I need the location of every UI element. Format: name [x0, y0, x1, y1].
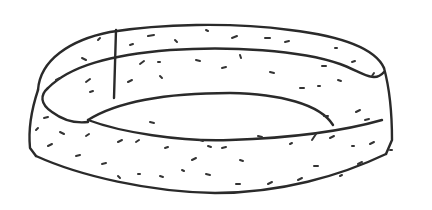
speck-mark [330, 136, 334, 138]
speck-mark [182, 170, 184, 171]
speck-mark [258, 136, 262, 137]
speck-mark [200, 140, 203, 141]
speck-mark [222, 147, 226, 148]
inner-top-rim-line [48, 49, 384, 88]
outer-left-side-line [29, 90, 38, 156]
speck-mark [48, 144, 52, 146]
speck-mark [372, 73, 374, 76]
speck-mark [44, 117, 48, 118]
speck-mark [222, 67, 226, 68]
speck-mark [148, 35, 154, 36]
speck-mark [90, 91, 93, 92]
speck-mark [298, 178, 302, 180]
speck-mark [352, 61, 355, 62]
speck-mark [76, 155, 80, 156]
speck-mark [340, 175, 342, 176]
speck-mark [240, 55, 241, 58]
hole-far-edge-line [88, 93, 333, 125]
speck-mark [240, 160, 243, 161]
inner-left-curve-line [42, 88, 88, 122]
speck-mark [206, 174, 210, 175]
bottom-rim-line [36, 154, 386, 193]
speck-mark [268, 182, 272, 184]
speck-mark [136, 140, 139, 142]
speck-mark [192, 158, 196, 160]
speck-mark [232, 36, 237, 38]
seam-line-line [114, 30, 116, 98]
speck-mark [290, 143, 292, 144]
speck-mark [312, 134, 316, 140]
speck-mark [160, 176, 163, 177]
speck-mark [82, 58, 86, 60]
speck-mark [165, 147, 168, 148]
speck-mark [102, 163, 106, 164]
speck-mark [60, 132, 64, 134]
speck-mark [356, 110, 360, 112]
ring-outlines [29, 25, 392, 193]
speck-mark [365, 119, 369, 120]
speck-mark [86, 134, 89, 136]
ring-sketch-drawing [0, 0, 432, 210]
outer-right-side-line [384, 68, 392, 154]
speck-mark [118, 140, 122, 142]
speck-mark [208, 146, 211, 147]
speck-mark [86, 79, 90, 82]
speck-mark [160, 76, 162, 78]
speck-mark [196, 60, 200, 61]
speck-mark [270, 72, 274, 73]
hole-near-edge-line [88, 120, 382, 140]
speck-mark [206, 30, 208, 31]
speck-mark [285, 41, 289, 42]
speck-mark [36, 128, 38, 130]
speck-mark [130, 44, 133, 45]
speck-mark [128, 80, 132, 82]
speck-mark [140, 61, 144, 64]
speck-mark [175, 40, 177, 42]
speck-mark [338, 80, 341, 81]
speck-mark [118, 176, 120, 178]
speck-mark [370, 142, 374, 144]
speck-mark [98, 38, 100, 40]
speck-mark [150, 122, 154, 123]
speckle-texture [36, 30, 392, 184]
